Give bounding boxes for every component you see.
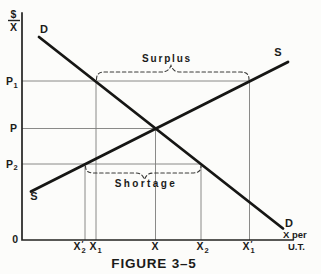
origin-label: 0 (12, 233, 18, 245)
diagram-svg: $ X D S S D P 1 P P 2 0 X ′ 2 X 1 X X 2 … (0, 0, 321, 274)
y-axis-label-numerator: $ (11, 8, 17, 20)
demand-curve-upper-label: D (40, 23, 48, 35)
price-p2-subscript: 2 (14, 163, 18, 172)
figure-3-5-supply-demand-diagram: $ X D S S D P 1 P P 2 0 X ′ 2 X 1 X X 2 … (0, 0, 321, 274)
x-axis-unit-line1: X per (283, 229, 307, 240)
y-axis-label-denominator: X (10, 21, 17, 33)
shortage-annotation: Shortage (115, 178, 178, 189)
quantity-x1-prime-label: X (242, 240, 249, 252)
quantity-x1-label: X (89, 240, 96, 252)
demand-curve (39, 37, 283, 229)
quantity-x2-prime-subscript: 2 (82, 246, 86, 255)
figure-caption: FIGURE 3–5 (111, 256, 196, 271)
supply-curve-lower-label: S (30, 190, 37, 202)
quantity-x2-label: X (196, 240, 203, 252)
surplus-annotation: Surplus (142, 53, 192, 64)
price-p-label: P (10, 122, 17, 134)
quantity-x2-prime-label: X (73, 240, 80, 252)
surplus-brace (97, 66, 250, 80)
quantity-x1-prime-subscript: 1 (251, 246, 255, 255)
x-axis-unit-line2: U.T. (288, 241, 305, 252)
quantity-x-label: X (151, 240, 158, 252)
price-p1-label: P (6, 75, 13, 87)
price-p2-label: P (6, 158, 13, 170)
demand-curve-lower-label: D (285, 217, 293, 229)
price-p1-subscript: 1 (14, 81, 18, 90)
quantity-x1-subscript: 1 (98, 246, 102, 255)
quantity-x2-subscript: 2 (205, 246, 209, 255)
supply-curve-upper-label: S (274, 46, 281, 58)
